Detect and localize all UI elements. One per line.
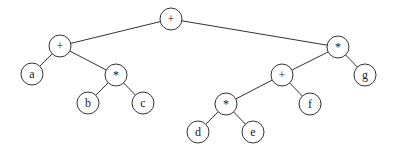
tree-edge [124,83,136,95]
node-label: + [279,68,286,82]
node-label: d [195,125,201,139]
tree-edge [236,80,272,99]
node-label: g [362,68,368,82]
node-label: a [29,67,35,81]
node-label: + [168,12,175,26]
tree-node: c [132,92,154,114]
tree-node: + [271,64,293,86]
tree-node: g [354,64,376,86]
tree-node: * [327,36,349,58]
tree-edge [96,83,108,95]
tree-node: e [242,121,264,143]
tree-node: + [49,35,71,57]
tree-node: * [105,64,127,86]
tree-node: a [21,63,43,85]
tree-node: d [187,121,209,143]
tree-edge [182,21,327,45]
tree-edge [70,51,106,70]
node-label: c [140,96,145,110]
node-label: * [335,40,341,54]
node-label: + [57,39,64,53]
tree-edge [346,55,358,67]
expression-tree-diagram: ++a*bc*+g*fde [0,0,396,155]
node-label: * [113,68,119,82]
tree-edge [71,22,161,44]
tree-node: * [215,93,237,115]
tree-node: b [77,92,99,114]
tree-edge [290,83,303,96]
tree-edge [206,112,218,124]
tree-edge [40,54,52,66]
node-label: * [223,97,229,111]
node-label: b [85,96,91,110]
tree-edge [292,52,328,70]
node-label: f [308,97,312,111]
tree-node: f [299,93,321,115]
tree-nodes: ++a*bc*+g*fde [21,8,376,143]
tree-edge [234,112,246,124]
node-label: e [250,125,255,139]
tree-node: + [160,8,182,30]
